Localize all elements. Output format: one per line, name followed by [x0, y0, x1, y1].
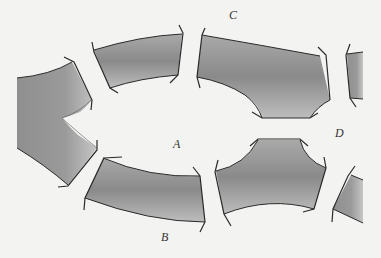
label-d: D [335, 126, 344, 141]
d-junction-segment [215, 139, 326, 226]
left-junction-segment [17, 57, 97, 187]
label-a: A [173, 137, 180, 152]
label-b: B [161, 230, 168, 245]
b-arc-segment [84, 157, 205, 232]
right-bottom-stub-segment [332, 166, 363, 223]
right-top-stub-segment [346, 44, 363, 107]
label-c: C [229, 8, 237, 23]
top-arc-segment [92, 25, 183, 93]
c-junction-segment [197, 28, 330, 118]
band-diagram [0, 0, 381, 258]
